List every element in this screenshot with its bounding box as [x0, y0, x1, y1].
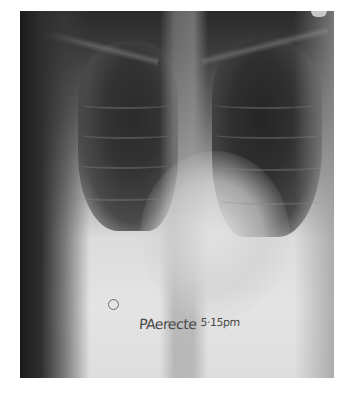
annotation-view: PAerecte: [138, 316, 196, 332]
handwritten-annotation: PAerecte5·15pm: [138, 316, 240, 332]
soft-tissue-edge-left: [20, 11, 90, 378]
left-lung-field: [212, 37, 322, 237]
rib-shadow: [70, 193, 170, 201]
soft-tissue-edge-right: [294, 11, 334, 378]
right-lung-field: [78, 41, 178, 231]
rib-shadow: [75, 161, 170, 169]
rib-shadow: [218, 163, 323, 171]
right-clavicle: [31, 25, 160, 66]
rib-shadow: [215, 101, 315, 109]
left-clavicle: [201, 25, 330, 66]
cardiac-shadow: [140, 151, 290, 321]
side-marker: [108, 299, 119, 310]
annotation-time: 5·15pm: [200, 316, 240, 329]
rib-shadow: [80, 131, 170, 139]
rib-shadow: [215, 131, 320, 139]
rib-shadow: [220, 197, 325, 205]
rib-shadow: [80, 101, 170, 109]
